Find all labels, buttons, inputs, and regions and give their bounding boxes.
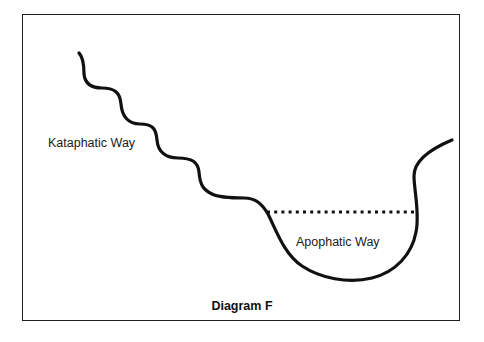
apophatic-way-label: Apophatic Way	[296, 236, 380, 249]
diagram-drawing	[0, 0, 484, 342]
kataphatic-wavy-path	[79, 53, 452, 280]
diagram-canvas: Kataphatic Way Apophatic Way Diagram F	[0, 0, 484, 342]
diagram-caption: Diagram F	[0, 300, 484, 313]
kataphatic-way-label: Kataphatic Way	[48, 137, 135, 150]
